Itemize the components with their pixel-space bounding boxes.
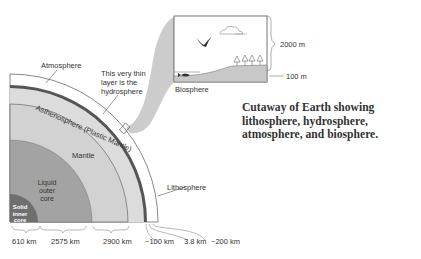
figure-caption: Cutaway of Earth showing lithosphere, hy… [242, 101, 421, 142]
outer-core-label: Liquid outer core [34, 179, 60, 203]
earth-quarter [10, 74, 158, 222]
biosphere-label: Biosphere [175, 85, 209, 94]
height-2000m-label: 2000 m [280, 40, 305, 49]
earth-cutaway-diagram: Atmosphere This very thin layer is the h… [0, 0, 421, 259]
hydrosphere-note: This very thin layer is the hydrosphere [101, 69, 149, 96]
caption-line-1: Cutaway of Earth showing [242, 101, 421, 115]
thickness-mantle: 2900 km [103, 237, 132, 246]
mantle-label: Mantle [72, 151, 95, 160]
thickness-lithosphere: ~100 km [145, 237, 174, 246]
thickness-inner-core: 610 km [12, 237, 37, 246]
biosphere-inset [174, 16, 267, 82]
lithosphere-label: Lithosphere [167, 183, 206, 192]
caption-line-2: lithosphere, hydrosphere, [242, 115, 421, 129]
thickness-outer-core: 2575 km [51, 237, 80, 246]
inner-core-label: Solid inner core [9, 204, 31, 224]
height-100m-label: 100 m [286, 72, 307, 81]
atmosphere-label: Atmosphere [41, 61, 81, 70]
caption-line-3: atmosphere, and biosphere. [242, 128, 421, 142]
thickness-hydrosphere: 3.8 km [184, 237, 207, 246]
thickness-atmosphere: ~200 km [211, 237, 240, 246]
